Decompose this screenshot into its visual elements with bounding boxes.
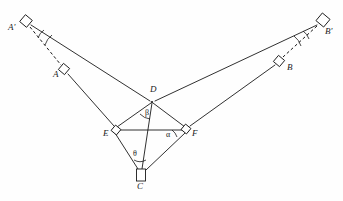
background-bleed-right bbox=[186, 180, 189, 190]
line-Bprime-B bbox=[283, 26, 317, 57]
label-C: C bbox=[137, 182, 143, 191]
label-angle-alpha: α bbox=[166, 131, 170, 139]
label-A: A bbox=[53, 70, 59, 79]
label-B-prime: B' bbox=[325, 27, 332, 36]
label-angle-beta: β bbox=[145, 109, 149, 117]
angle-arc-theta bbox=[134, 160, 146, 162]
solid-lines-group bbox=[31, 25, 317, 170]
station-markers-group bbox=[20, 13, 330, 181]
station-marker-A-prime[interactable] bbox=[20, 15, 33, 28]
label-E: E bbox=[103, 129, 109, 138]
label-A-prime: A' bbox=[8, 23, 15, 32]
background-bleed-left bbox=[22, 180, 25, 190]
angle-arc-alpha bbox=[172, 130, 177, 137]
station-marker-C[interactable] bbox=[137, 169, 146, 181]
offset-angle-ticks-group bbox=[38, 30, 309, 46]
line-Aprime-D bbox=[31, 25, 150, 101]
station-vertex-D[interactable] bbox=[151, 101, 153, 103]
label-angle-theta: θ bbox=[133, 150, 137, 158]
station-marker-B-prime[interactable] bbox=[316, 13, 330, 27]
label-B: B bbox=[287, 63, 293, 72]
line-A-E bbox=[68, 74, 114, 126]
station-marker-A[interactable] bbox=[58, 63, 69, 74]
line-B-F bbox=[190, 65, 275, 126]
line-D-F bbox=[153, 103, 185, 127]
station-marker-E[interactable] bbox=[111, 125, 121, 135]
line-Aprime-A bbox=[30, 27, 61, 65]
figure-container: A' A B' B D E F C β α θ bbox=[0, 0, 343, 201]
triangulation-diagram bbox=[0, 0, 343, 201]
label-F: F bbox=[192, 129, 198, 138]
angle-arcs-group bbox=[134, 114, 177, 162]
label-D: D bbox=[150, 85, 157, 94]
